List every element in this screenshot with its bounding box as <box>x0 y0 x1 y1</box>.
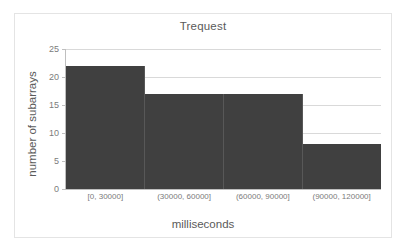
x-axis-tick-label: [0, 30000] <box>66 192 145 201</box>
x-axis-title: milliseconds <box>15 218 391 230</box>
x-axis-tick-label: (30000, 60000] <box>145 192 224 201</box>
x-axis-tick-labels: [0, 30000](30000, 60000](60000, 90000](9… <box>66 192 381 201</box>
bar <box>66 66 145 189</box>
y-axis-tick-label: 5 <box>54 156 59 166</box>
y-axis-title: number of subarrays <box>26 54 38 194</box>
chart-title: Trequest <box>15 20 391 32</box>
bar <box>303 144 381 189</box>
bar-series <box>66 49 381 189</box>
y-axis-tick-label: 10 <box>49 128 59 138</box>
y-axis-tick-label: 20 <box>49 72 59 82</box>
chart-container: Trequest number of subarrays 0510152025 … <box>14 13 392 238</box>
y-axis-tick-label: 15 <box>49 100 59 110</box>
x-axis-tick-label: (60000, 90000] <box>224 192 303 201</box>
y-axis-tick-mark <box>62 189 66 190</box>
y-axis-tick-label: 0 <box>54 184 59 194</box>
x-axis-tick-label: (90000, 120000] <box>302 192 381 201</box>
x-axis-line <box>65 189 381 190</box>
bar <box>145 94 224 189</box>
y-axis-tick-label: 25 <box>49 44 59 54</box>
bar <box>224 94 303 189</box>
plot-area: 0510152025 <box>66 49 381 189</box>
